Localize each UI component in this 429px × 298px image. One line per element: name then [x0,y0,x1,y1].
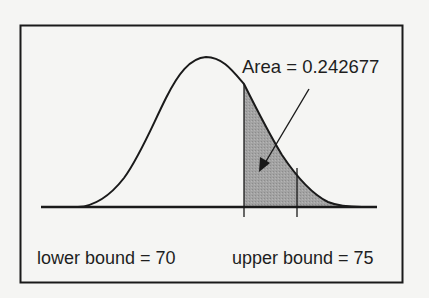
normal-curve [78,57,362,207]
chart-figure: Area = 0.242677 lower bound = 70 upper b… [0,0,429,298]
shaded-area [244,84,362,207]
annotation-arrow-shaft [265,89,309,163]
area-annotation: Area = 0.242677 [242,58,379,77]
lower-bound-label: lower bound = 70 [37,249,176,267]
upper-bound-label: upper bound = 75 [232,249,374,267]
